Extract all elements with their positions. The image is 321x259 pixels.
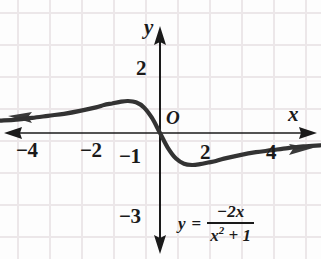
function-curve — [0, 0, 321, 259]
equation-denominator: x2 + 1 — [207, 224, 254, 245]
equation-fraction: −2x x2 + 1 — [207, 203, 254, 244]
denominator-exponent: 2 — [219, 224, 225, 236]
equation-label: y = −2x x2 + 1 — [178, 203, 254, 244]
x-tick-label-4: 4 — [266, 142, 276, 163]
x-axis-label: x — [288, 104, 299, 125]
y-tick-label-2: 2 — [136, 58, 146, 79]
origin-label: O — [166, 108, 180, 127]
equation-numerator: −2x — [214, 203, 247, 222]
x-tick-label-neg2: −2 — [80, 140, 101, 161]
denominator-base: x — [210, 226, 219, 245]
y-tick-label-neg1: −1 — [119, 146, 140, 167]
equation-relation: = — [192, 214, 202, 234]
x-tick-label-neg4: −4 — [16, 140, 37, 161]
graph-figure: y x O 2 −1 −3 −4 −2 2 4 y = −2x x2 + 1 — [0, 0, 321, 259]
y-axis-label: y — [144, 17, 153, 38]
equation-lhs: y — [178, 214, 186, 234]
y-tick-label-neg3: −3 — [119, 206, 140, 227]
x-tick-label-2: 2 — [200, 142, 210, 163]
denominator-rest: + 1 — [228, 226, 250, 245]
